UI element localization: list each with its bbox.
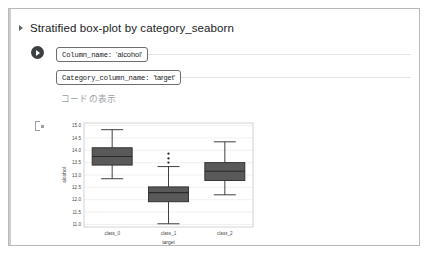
y-tick-label: 13.0 [72, 173, 81, 178]
field-underline-rule [147, 54, 411, 55]
field-value-category-column-name: 'target' [153, 73, 175, 82]
cell-header[interactable]: Stratified box-plot by category_seaborn [19, 19, 411, 37]
box-iqr [149, 187, 189, 202]
cell-accent-rail [9, 9, 11, 245]
x-tick-label: class_2 [217, 231, 233, 236]
outlier-point [167, 157, 169, 159]
y-tick-label: 15.0 [72, 123, 81, 128]
x-tick-label: class_0 [104, 231, 120, 236]
form-row-category-column-name: Category_column_name: 'target' [56, 69, 411, 86]
y-tick-label: 11.5 [72, 210, 81, 215]
y-tick-label: 14.5 [72, 136, 81, 141]
run-play-icon[interactable] [31, 46, 44, 59]
output-bracket-shape [35, 121, 40, 131]
boxplot-svg: 11.011.512.012.513.013.514.014.515.0clas… [57, 119, 257, 252]
y-tick-label: 12.0 [72, 197, 81, 202]
field-column-name[interactable]: Column_name: 'alcohol' [56, 47, 148, 62]
y-tick-label: 14.0 [72, 148, 81, 153]
field-label-category-column-name: Category_column_name: [62, 74, 149, 82]
y-axis-label: alcohol [62, 167, 67, 183]
outlier-point [167, 161, 169, 163]
notebook-cell-card: Stratified box-plot by category_seaborn … [8, 8, 420, 246]
x-axis-label: target [162, 240, 175, 245]
field-label-column-name: Column_name: [62, 51, 112, 59]
y-tick-label: 13.5 [72, 160, 81, 165]
form-row-column-name: Column_name: 'alcohol' [56, 46, 411, 63]
outlier-point [167, 153, 169, 155]
boxplot-figure: 11.011.512.012.513.013.514.014.515.0clas… [57, 119, 257, 252]
show-code-link[interactable]: コードの表示 [61, 92, 116, 104]
cell-title: Stratified box-plot by category_seaborn [30, 22, 234, 34]
field-value-column-name: 'alcohol' [116, 50, 142, 59]
field-underline-rule [180, 77, 411, 78]
y-tick-label: 11.0 [72, 222, 81, 227]
x-tick-label: class_1 [161, 231, 177, 236]
y-tick-label: 12.5 [72, 185, 81, 190]
field-category-column-name[interactable]: Category_column_name: 'target' [56, 70, 181, 85]
triangle-right-icon[interactable] [19, 25, 23, 31]
output-bracket-dot [41, 125, 44, 128]
output-bracket-icon [35, 121, 44, 131]
